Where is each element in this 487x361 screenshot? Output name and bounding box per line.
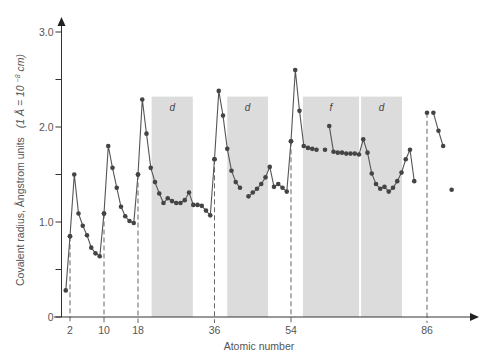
data-point-marker <box>136 172 141 177</box>
data-point-marker <box>63 288 68 293</box>
data-point-marker <box>246 194 251 199</box>
data-point-marker <box>382 185 387 190</box>
data-point-marker <box>408 148 413 153</box>
band-label: d <box>169 102 175 113</box>
data-point-marker <box>425 110 430 115</box>
data-point-marker <box>187 190 192 195</box>
data-point-marker <box>412 179 417 184</box>
data-point-marker <box>250 190 255 195</box>
data-point-marker <box>208 213 213 218</box>
band-label: d <box>379 102 385 113</box>
data-point-marker <box>436 129 441 134</box>
series-line <box>70 175 104 257</box>
y-axis-title-exponent: −8 <box>14 74 21 82</box>
y-axis-title-main: Covalent radius, Ångstrom units <box>14 137 26 286</box>
data-point-marker <box>110 166 115 171</box>
data-point-marker <box>102 211 107 216</box>
data-point-marker <box>170 199 175 204</box>
covalent-radius-chart: ddfd 01.02.03.0 21018365486 Atomic numbe… <box>0 0 487 361</box>
data-point-marker <box>178 201 183 206</box>
shaded-band-d <box>227 97 268 317</box>
data-point-marker <box>153 180 158 185</box>
data-point-marker <box>174 201 179 206</box>
data-point-marker <box>276 182 281 187</box>
data-point-marker <box>306 146 311 151</box>
y-axis-arrow-icon <box>58 17 66 26</box>
shaded-band-d <box>361 97 402 317</box>
x-tick-label: 10 <box>98 324 110 336</box>
data-point-marker <box>289 139 294 144</box>
data-point-marker <box>123 214 128 219</box>
data-point-marker <box>348 151 353 156</box>
data-point-marker <box>369 171 374 176</box>
y-tick-label: 0 <box>48 311 54 323</box>
data-point-marker <box>212 157 217 162</box>
data-point-marker <box>314 148 319 153</box>
data-point-marker <box>335 150 340 155</box>
data-point-marker <box>403 157 408 162</box>
data-point-marker <box>221 113 226 118</box>
data-point-marker <box>229 168 234 173</box>
data-point-marker <box>140 97 145 102</box>
series-line <box>66 236 70 290</box>
data-point-marker <box>331 149 336 154</box>
data-point-marker <box>144 131 149 136</box>
data-point-marker <box>127 219 132 224</box>
data-point-marker <box>301 144 306 149</box>
data-point-marker <box>195 203 200 208</box>
data-point-marker <box>340 150 345 155</box>
data-point-marker <box>191 203 196 208</box>
y-axis-title: Covalent radius, Ångstrom units (1 Å = 1… <box>10 54 26 286</box>
data-point-marker <box>131 221 136 226</box>
data-point-marker <box>365 150 370 155</box>
y-axis-title-units: (1 Å = 10 <box>14 85 26 128</box>
x-tick-label: 2 <box>67 324 73 336</box>
data-point-marker <box>225 147 230 152</box>
y-axis-title-tail: cm) <box>14 54 26 72</box>
y-tick-label: 1.0 <box>39 216 54 228</box>
x-tick-label: 86 <box>421 324 433 336</box>
data-point-marker <box>76 211 81 216</box>
data-point-marker <box>344 151 349 156</box>
data-point-marker <box>374 182 379 187</box>
data-point-marker <box>399 170 404 175</box>
data-point-marker <box>216 89 221 94</box>
band-label: d <box>245 102 251 113</box>
data-point-marker <box>233 180 238 185</box>
data-point-marker <box>284 189 289 194</box>
data-point-marker <box>293 68 298 73</box>
x-axis-arrow-icon <box>470 313 479 321</box>
data-point-marker <box>378 186 383 191</box>
series-line <box>104 146 138 223</box>
data-point-marker <box>72 172 77 177</box>
data-point-marker <box>89 245 94 250</box>
data-point-marker <box>310 147 315 152</box>
data-point-marker <box>441 144 446 149</box>
data-point-marker <box>255 186 260 191</box>
data-point-marker <box>263 175 268 180</box>
data-point-marker <box>157 191 162 196</box>
x-tick-label: 18 <box>132 324 144 336</box>
data-point-marker <box>199 204 204 209</box>
data-point-marker <box>449 187 454 192</box>
shaded-bands: ddfd <box>152 97 402 317</box>
x-axis-title: Atomic number <box>224 340 295 352</box>
data-point-marker <box>85 233 90 238</box>
x-ticks: 21018365486 <box>67 324 433 336</box>
data-point-marker <box>361 137 366 142</box>
data-point-marker <box>204 208 209 213</box>
data-point-marker <box>352 151 357 156</box>
data-point-marker <box>238 186 243 191</box>
data-point-marker <box>93 251 98 256</box>
data-point-marker <box>280 186 285 191</box>
data-point-marker <box>386 189 391 194</box>
data-point-marker <box>323 148 328 153</box>
data-point-marker <box>297 109 302 114</box>
data-point-marker <box>80 224 85 229</box>
data-point-marker <box>106 144 111 149</box>
data-point-marker <box>182 198 187 203</box>
data-point-marker <box>161 201 166 206</box>
data-point-marker <box>357 152 362 157</box>
data-point-marker <box>267 165 272 170</box>
x-tick-label: 54 <box>285 324 297 336</box>
